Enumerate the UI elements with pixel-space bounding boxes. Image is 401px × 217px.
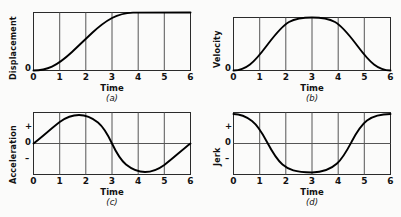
panel-d-x-tick-2: 2	[280, 177, 292, 186]
panel-c-x-tick-1: 1	[54, 177, 66, 186]
panel-b-x-tick-1: 1	[254, 73, 266, 82]
panel-a-x-tick-0: 0	[28, 73, 40, 82]
panel-c-y-tick-minus: –	[25, 154, 29, 163]
panel-a-x-tick-1: 1	[54, 73, 66, 82]
panel-d-x-tick-4: 4	[332, 177, 344, 186]
panel-d-gridlines	[234, 113, 391, 175]
panel-c-x-tick-0: 0	[28, 177, 40, 186]
panel-c-x-tick-3: 3	[106, 177, 118, 186]
panel-acceleration: Acceleration + 0 – 0 1 2 3 4 5 6 Time (c…	[0, 104, 200, 217]
panel-d-x-tick-6: 6	[385, 177, 397, 186]
panel-a-x-axis-label: Time	[82, 84, 142, 93]
panel-c-caption: (c)	[82, 198, 142, 207]
panel-b-x-tick-3: 3	[306, 73, 318, 82]
panel-c-y-tick-zero: 0	[25, 138, 31, 147]
panel-a-x-tick-4: 4	[132, 73, 144, 82]
panel-d-x-axis-label: Time	[282, 188, 342, 197]
panel-a-gridlines	[60, 13, 165, 71]
panel-b-x-tick-0: 0	[228, 73, 240, 82]
panel-b-x-tick-2: 2	[280, 73, 292, 82]
panel-c-x-tick-5: 5	[158, 177, 170, 186]
panel-c-y-axis-label: Acceleration	[9, 125, 18, 184]
panel-b-gridlines	[260, 18, 365, 71]
panel-a-x-tick-6: 6	[185, 73, 197, 82]
panel-b-caption: (b)	[282, 94, 342, 103]
panel-c-x-tick-6: 6	[185, 177, 197, 186]
panel-c-y-tick-plus: +	[25, 122, 32, 131]
panel-b-x-tick-5: 5	[358, 73, 370, 82]
panel-a-y-axis-label: Displacement	[9, 16, 18, 80]
panel-d-x-tick-5: 5	[358, 177, 370, 186]
panel-c-x-tick-2: 2	[80, 177, 92, 186]
panel-d-y-tick-plus: +	[225, 122, 232, 131]
panel-jerk: Jerk + 0 – 0 1 2 3 4 5 6 Time (d)	[200, 104, 401, 217]
panel-d-y-tick-minus: –	[225, 154, 229, 163]
panel-a-caption: (a)	[82, 94, 142, 103]
panel-b-x-tick-4: 4	[332, 73, 344, 82]
panel-b-y-axis-label: Velocity	[213, 30, 222, 68]
panel-d-x-tick-3: 3	[306, 177, 318, 186]
panel-velocity: Velocity 0 0 1 2 3 4 5 6 Time (b)	[200, 0, 401, 103]
panel-b-x-axis-label: Time	[282, 84, 342, 93]
panel-d-caption: (d)	[282, 198, 342, 207]
panel-a-x-tick-2: 2	[80, 73, 92, 82]
panel-b-x-tick-6: 6	[385, 73, 397, 82]
panel-a-x-tick-3: 3	[106, 73, 118, 82]
panel-d-y-axis-label: Jerk	[213, 148, 222, 166]
panel-a-x-tick-5: 5	[158, 73, 170, 82]
motion-curves-figure: Displacement 0 0 1 2 3 4 5 6 Time (a)	[0, 0, 401, 217]
panel-d-x-tick-0: 0	[228, 177, 240, 186]
panel-c-x-axis-label: Time	[82, 188, 142, 197]
panel-d-x-tick-1: 1	[254, 177, 266, 186]
panel-d-y-tick-zero: 0	[225, 138, 231, 147]
panel-c-x-tick-4: 4	[132, 177, 144, 186]
panel-displacement: Displacement 0 0 1 2 3 4 5 6 Time (a)	[0, 0, 200, 103]
